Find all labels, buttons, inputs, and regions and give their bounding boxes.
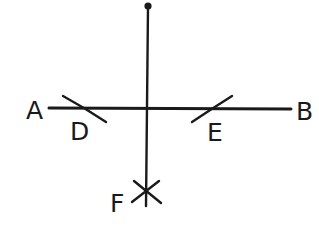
construction-diagram: A B D E F <box>0 0 319 238</box>
arc-f-1 <box>134 181 161 203</box>
label-d: D <box>70 117 89 146</box>
label-b: B <box>296 97 313 126</box>
label-e: E <box>207 118 223 147</box>
label-a: A <box>26 96 43 125</box>
label-f: F <box>110 189 124 218</box>
perpendicular-line <box>146 7 148 206</box>
